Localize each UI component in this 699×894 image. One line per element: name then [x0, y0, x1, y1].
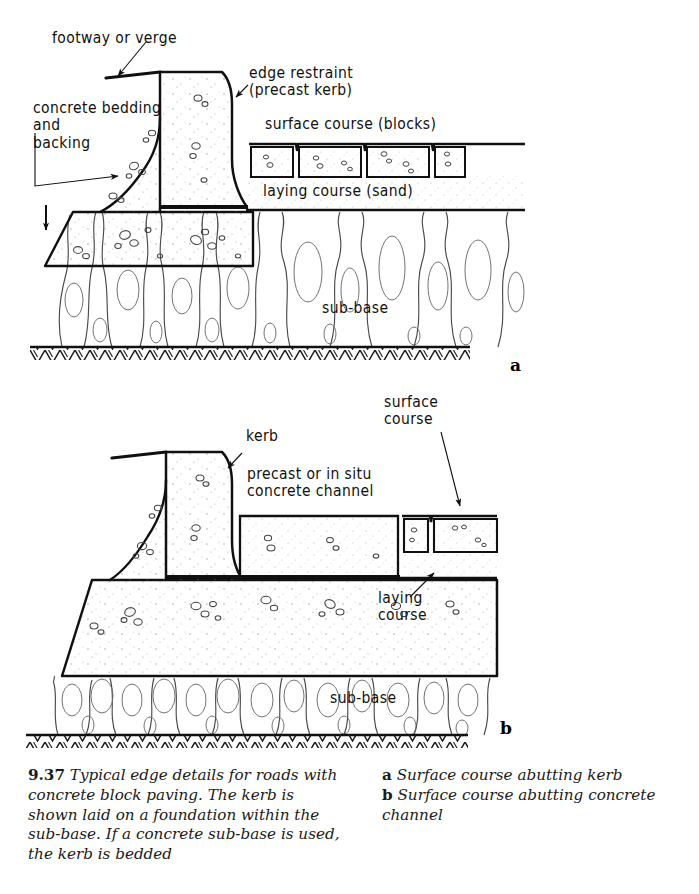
- caption-letter-b: b: [382, 786, 393, 804]
- caption-text-b: Surface course abutting concrete channel: [382, 786, 655, 824]
- label-kerb: kerb: [246, 428, 278, 445]
- panel-b-concrete-foundation: [62, 580, 497, 676]
- caption-item-a: a Surface course abutting kerb: [382, 766, 682, 786]
- panel-a-footway-line: [106, 72, 160, 78]
- figure-caption-text: Typical edge details for roads with conc…: [28, 766, 340, 863]
- figure-number: 9.37: [28, 766, 65, 784]
- label-sub-base-a: sub-base: [322, 300, 388, 317]
- label-precast-or-in-situ-concrete-channel: precast or in situ concrete channel: [247, 466, 374, 501]
- panel-a-subgrade: [30, 347, 470, 360]
- panel-b-laying-course: [398, 552, 497, 578]
- label-sub-base-b: sub-base: [330, 690, 396, 707]
- figure-9-37: footway or verge concrete bedding and ba…: [0, 0, 699, 894]
- panel-b-bedding-backing: [110, 480, 166, 580]
- caption-text-a: Surface course abutting kerb: [397, 766, 623, 784]
- caption-item-b: b Surface course abutting concrete chann…: [382, 786, 682, 826]
- label-laying-course-sand: laying course (sand): [263, 183, 413, 200]
- label-footway-or-verge: footway or verge: [52, 30, 177, 47]
- panel-letter-b: b: [500, 718, 512, 738]
- panel-b-footway-line: [112, 452, 166, 458]
- panel-letter-a: a: [510, 355, 521, 375]
- label-concrete-bedding-and-backing: concrete bedding and backing: [33, 100, 161, 152]
- label-edge-restraint: edge restraint (precast kerb): [249, 65, 353, 100]
- figure-caption-left: 9.37 Typical edge details for roads with…: [28, 766, 348, 865]
- panel-b-sub-base: [40, 676, 490, 736]
- panel-b-kerb: [166, 452, 243, 580]
- caption-letter-a: a: [382, 766, 392, 784]
- label-laying-course-b: laying course: [378, 590, 427, 625]
- panel-a-concrete-foundation: [45, 212, 253, 266]
- panel-a-surface-course-blocks: [251, 147, 465, 177]
- figure-caption-right: a Surface course abutting kerb b Surface…: [382, 766, 682, 825]
- label-surface-course-b: surface course: [384, 394, 438, 429]
- label-surface-course-blocks: surface course (blocks): [265, 116, 436, 133]
- panel-a-edge-restraint-kerb: [160, 72, 247, 212]
- panel-b-subgrade: [26, 735, 468, 748]
